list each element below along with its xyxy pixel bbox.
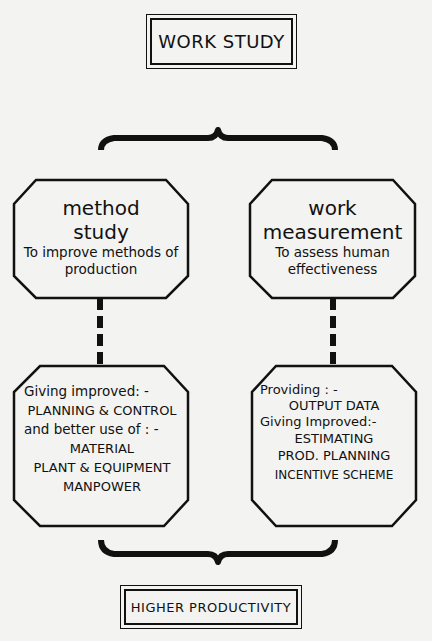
outcome-line: Giving Improved:-	[260, 414, 376, 430]
method-study-title-1: method	[62, 196, 139, 220]
bottom-brace	[101, 540, 335, 562]
method-study-title-2: study	[73, 220, 128, 244]
top-brace	[101, 130, 335, 150]
work-measurement-purpose-2: effectiveness	[288, 261, 378, 278]
outcome-line: Giving improved: -	[24, 382, 149, 401]
outcome-line: Providing : -	[260, 382, 338, 398]
work-measurement-outcome: Providing : - OUTPUT DATA Giving Improve…	[260, 382, 408, 485]
outcome-line: and better use of : -	[24, 420, 159, 439]
outcome-line: PLANT & EQUIPMENT	[33, 458, 170, 477]
outcome-line: INCENTIVE SCHEME	[275, 465, 393, 485]
work-measurement-title-1: work	[308, 196, 356, 220]
outcome-line: ESTIMATING	[295, 430, 374, 447]
work-measurement-node: work measurement To assess human effecti…	[250, 196, 415, 278]
outcome-line: OUTPUT DATA	[289, 398, 380, 414]
method-study-outcome: Giving improved: - PLANNING & CONTROL an…	[24, 382, 180, 496]
outcome-line: PLANNING & CONTROL	[27, 401, 176, 420]
higher-productivity-box: HIGHER PRODUCTIVITY	[124, 589, 298, 625]
outcome-line: MATERIAL	[70, 439, 134, 458]
outcome-line: PROD. PLANNING	[278, 447, 391, 465]
work-study-label: WORK STUDY	[158, 31, 284, 52]
work-study-box: WORK STUDY	[150, 18, 293, 65]
higher-productivity-label: HIGHER PRODUCTIVITY	[131, 600, 291, 615]
method-study-purpose-2: production	[65, 261, 138, 278]
diagram-shapes	[0, 0, 432, 641]
work-measurement-title-2: measurement	[263, 220, 403, 244]
work-measurement-purpose-1: To assess human	[275, 244, 390, 261]
outcome-line: MANPOWER	[63, 477, 141, 496]
method-study-purpose-1: To improve methods of	[24, 244, 179, 261]
method-study-node: method study To improve methods of produ…	[14, 196, 188, 278]
